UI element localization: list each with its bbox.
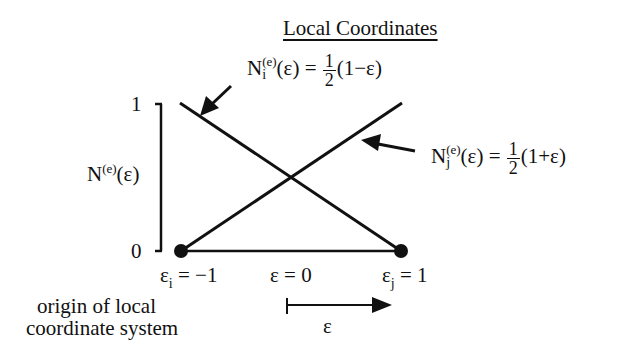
y-label-sup: (e): [102, 161, 116, 176]
ni-sub: i: [262, 68, 276, 82]
nj-base: N: [431, 144, 446, 168]
direction-label: ε: [323, 316, 332, 337]
epsilon-direction-arrow-icon: [287, 297, 392, 314]
node-i-rest: = −1: [173, 263, 218, 287]
shape-function-j-label: N(e)j(ε) = 12(1+ε): [431, 140, 566, 177]
y-label-base: N: [87, 162, 102, 186]
ni-base: N: [247, 56, 262, 80]
node-i-sub: i: [169, 276, 173, 291]
ni-den: 2: [323, 71, 336, 89]
shape-function-i-label: N(e)i(ε) = 12(1−ε): [247, 52, 382, 89]
origin-note-line1: origin of local: [37, 296, 156, 317]
nj-num: 1: [507, 140, 520, 159]
node-j-label: εj = 1: [382, 265, 428, 286]
origin-note-line2: coordinate system: [26, 318, 178, 339]
tick-label-1: 1: [131, 94, 142, 115]
node-i: [174, 244, 188, 258]
tick-label-0: 0: [131, 241, 142, 262]
y-axis-label: N(e)(ε): [87, 164, 139, 185]
nj-tail: (1+ε): [521, 144, 566, 168]
node-j-sub: j: [391, 276, 395, 291]
y-label-arg: (ε): [117, 162, 140, 186]
ni-arg: (ε) =: [277, 56, 317, 80]
nj-arg: (ε) =: [461, 144, 501, 168]
center-label: ε = 0: [270, 265, 312, 286]
ni-tail: (1−ε): [337, 56, 382, 80]
arrow-to-ni-icon: [200, 86, 231, 116]
nj-sub: j: [446, 156, 460, 170]
node-j-base: ε: [382, 263, 391, 287]
y-axis-bracket: [155, 104, 162, 251]
node-j-rest: = 1: [395, 263, 428, 287]
node-i-label: εi = −1: [160, 265, 217, 286]
node-j: [394, 244, 408, 258]
nj-fraction: 12: [507, 140, 520, 177]
ni-fraction: 12: [323, 52, 336, 89]
ni-num: 1: [323, 52, 336, 71]
arrow-to-nj-icon: [361, 134, 415, 151]
node-i-base: ε: [160, 263, 169, 287]
diagram-title: Local Coordinates: [283, 18, 438, 39]
nj-den: 2: [507, 159, 520, 177]
